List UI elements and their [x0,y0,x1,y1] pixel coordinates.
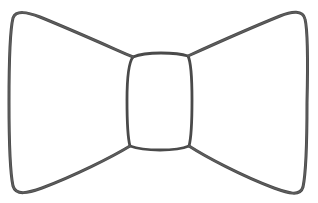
canvas-background [0,0,318,203]
bow-tie-drawing [0,0,318,203]
drawing-canvas: A simple hand-drawn black outline sketch… [0,0,318,203]
